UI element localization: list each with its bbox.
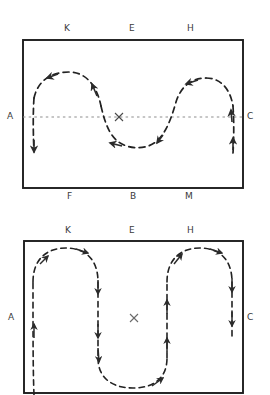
figure-1-drawing: [0, 0, 270, 220]
arrow-loop2-tr: [210, 249, 222, 253]
label-k-top-1: K: [64, 24, 70, 33]
figure-1-arrowheads: [34, 74, 233, 152]
label-b-bottom-1: B: [130, 192, 136, 201]
label-e-top-2: E: [129, 226, 135, 235]
figure-sine-wave: K E H F B M A C: [0, 0, 270, 220]
arrow-crest1-right: [92, 84, 97, 96]
label-h-top-2: H: [187, 226, 194, 235]
arrow-crest2-left: [186, 80, 198, 84]
arrow-bottom-down: [98, 348, 99, 362]
arrow-loop1-tl: [40, 256, 48, 264]
label-c-right-1: C: [247, 112, 254, 121]
label-h-top-1: H: [187, 24, 194, 33]
figure-1-frame: [23, 40, 243, 188]
label-k-top-2: K: [65, 226, 71, 235]
seg-loop1-top: [33, 248, 98, 282]
figure-2-drawing: [0, 220, 270, 395]
arrow-loop1-tr: [76, 249, 88, 253]
label-f-bottom-1: F: [67, 192, 72, 201]
dashed-looped-curve: [33, 248, 232, 395]
label-c-right-2: C: [247, 313, 254, 322]
label-a-left-1: A: [7, 112, 13, 121]
seg-a-riser: [33, 282, 34, 395]
figure-looped-field: K E H A C: [0, 220, 270, 390]
center-x-marker-2: [130, 314, 138, 322]
label-e-top-1: E: [129, 24, 135, 33]
label-a-left-2: A: [8, 313, 14, 322]
arrow-right-axis-up: [231, 110, 232, 122]
label-m-bottom-1: M: [185, 192, 193, 201]
dashed-sine-curve: [33, 72, 234, 153]
seg-loop2-top: [167, 248, 232, 282]
arrow-bottom-turn: [152, 378, 163, 386]
